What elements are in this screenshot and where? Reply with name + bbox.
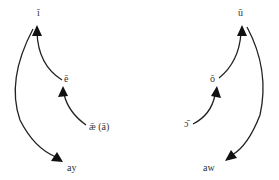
label-ay: ay: [67, 163, 76, 173]
label-o-long: ō: [210, 74, 215, 84]
label-i-long: ī: [37, 8, 40, 18]
label-ae-long: ǣ (ā): [89, 122, 109, 132]
arrows-layer: [0, 0, 279, 180]
arrow-o-to-u: [219, 25, 247, 78]
label-u-long: ū: [238, 8, 243, 18]
vowel-shift-diagram: ī ē ǣ (ā) ay ū ō ɔ̄ aw: [0, 0, 279, 180]
label-open-o-long: ɔ̄: [184, 119, 188, 129]
arrow-u-to-aw: [225, 27, 263, 161]
arrow-e-to-i: [32, 25, 62, 80]
label-aw: aw: [203, 163, 215, 173]
label-e-long: ē: [64, 74, 68, 84]
arrow-ae-to-e: [58, 86, 86, 125]
arrow-open-o-to-o: [193, 86, 221, 124]
